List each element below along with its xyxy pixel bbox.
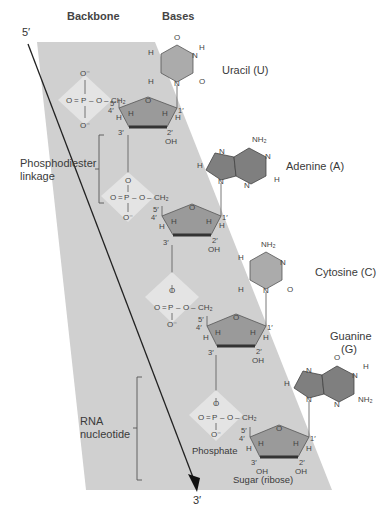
svg-text:=: = — [74, 96, 79, 105]
rna-structure-diagram: Backbone Bases 5′ 3′ O⁻ O = P – O – CH₂ … — [0, 0, 389, 508]
svg-text:3′: 3′ — [251, 458, 257, 467]
svg-text:N: N — [174, 79, 180, 88]
svg-text:CH₂: CH₂ — [242, 413, 257, 422]
svg-text:H: H — [203, 333, 209, 342]
svg-text:P: P — [124, 193, 129, 202]
svg-text:H: H — [363, 362, 369, 371]
svg-text:P: P — [168, 303, 173, 312]
svg-text:H: H — [258, 439, 264, 448]
svg-text:O: O — [154, 303, 160, 312]
svg-text:H: H — [116, 113, 122, 122]
svg-text:–: – — [147, 193, 152, 202]
svg-text:H: H — [215, 328, 221, 337]
svg-text:3′: 3′ — [118, 128, 124, 137]
svg-text:H: H — [219, 221, 225, 230]
svg-text:O: O — [183, 303, 189, 312]
svg-text:O: O — [110, 193, 116, 202]
svg-text:H: H — [263, 333, 269, 342]
svg-text:–: – — [220, 413, 225, 422]
svg-text:O: O — [174, 33, 180, 42]
phosphate-o-minus: O⁻ — [80, 69, 90, 78]
svg-text:O: O — [198, 413, 204, 422]
header-backbone: Backbone — [67, 10, 120, 22]
phosphodiester-label-line1: Phosphodiester — [20, 157, 97, 169]
svg-text:N: N — [218, 177, 224, 186]
guanine-pyrimidine-ring — [322, 366, 354, 402]
svg-text:–: – — [191, 303, 196, 312]
svg-text:O: O — [139, 193, 145, 202]
base-label-guanine-abbrev: (G) — [341, 343, 357, 355]
svg-text:O: O — [276, 424, 282, 433]
svg-text:4′: 4′ — [108, 106, 114, 115]
svg-text:H: H — [206, 217, 212, 226]
svg-text:O⁻: O⁻ — [167, 320, 177, 329]
svg-text:O: O — [199, 77, 205, 86]
svg-text:4′: 4′ — [239, 434, 245, 443]
svg-text:3′: 3′ — [208, 348, 214, 357]
svg-text:N: N — [280, 258, 286, 267]
svg-text:P: P — [212, 413, 217, 422]
svg-text:H: H — [238, 253, 244, 262]
svg-text:H: H — [246, 444, 252, 453]
base-label-cytosine: Cytosine (C) — [315, 266, 376, 278]
svg-text:H: H — [250, 328, 256, 337]
svg-text:O: O — [233, 313, 239, 322]
adenine-pyrimidine-ring — [234, 148, 266, 184]
header-bases: Bases — [162, 10, 194, 22]
svg-text:H: H — [284, 379, 290, 388]
base-label-guanine: Guanine — [330, 330, 372, 342]
adenine-imidazole-ring — [206, 153, 236, 180]
svg-text:1′: 1′ — [267, 323, 273, 332]
svg-text:N: N — [219, 147, 225, 156]
base-label-adenine: Adenine (A) — [286, 160, 344, 172]
svg-text:O: O — [287, 285, 293, 294]
svg-text:H: H — [148, 77, 154, 86]
svg-text:H: H — [171, 217, 177, 226]
svg-text:2′: 2′ — [256, 347, 262, 356]
guanine-imidazole-ring — [294, 371, 324, 398]
base-label-uracil: Uracil (U) — [222, 64, 268, 76]
svg-text:3′: 3′ — [163, 238, 169, 247]
three-prime-label: 3′ — [193, 494, 201, 506]
svg-text:4′: 4′ — [151, 213, 157, 222]
svg-text:NH₂: NH₂ — [252, 135, 267, 144]
rna-nucleotide-label-line2: nucleotide — [80, 428, 130, 440]
svg-text:H: H — [306, 444, 312, 453]
svg-text:2′: 2′ — [212, 236, 218, 245]
svg-text:CH₂: CH₂ — [154, 193, 169, 202]
rna-nucleotide-label-line1: RNA — [80, 415, 104, 427]
svg-text:OH: OH — [252, 356, 264, 365]
svg-text:N: N — [306, 395, 312, 404]
svg-text:N: N — [306, 366, 312, 375]
svg-text:OH: OH — [208, 245, 220, 254]
svg-text:H: H — [293, 439, 299, 448]
phosphate-label: Phosphate — [192, 445, 237, 456]
svg-text:N: N — [263, 286, 269, 295]
svg-text:P: P — [81, 96, 86, 105]
svg-text:O: O — [96, 96, 102, 105]
sugar-label: Sugar (ribose) — [233, 474, 293, 485]
svg-text:=: = — [162, 303, 167, 312]
svg-text:O: O — [334, 353, 340, 362]
svg-text:N: N — [192, 51, 198, 60]
svg-text:O: O — [145, 96, 151, 105]
svg-text:2′: 2′ — [167, 128, 173, 137]
svg-text:O: O — [227, 413, 233, 422]
svg-text:CH₂: CH₂ — [198, 303, 213, 312]
svg-text:OH: OH — [165, 137, 177, 146]
svg-text:NH₂: NH₂ — [261, 240, 276, 249]
svg-text:–: – — [235, 413, 240, 422]
svg-text:–: – — [176, 303, 181, 312]
svg-text:O: O — [66, 96, 72, 105]
five-prime-label: 5′ — [22, 26, 30, 38]
svg-text:H: H — [159, 222, 165, 231]
svg-text:=: = — [206, 413, 211, 422]
svg-text:OH: OH — [295, 467, 307, 476]
svg-text:=: = — [118, 193, 123, 202]
svg-text:H: H — [274, 175, 280, 184]
svg-text:N: N — [244, 181, 250, 190]
svg-text:H: H — [197, 161, 203, 170]
phosphodiester-label-line2: linkage — [20, 170, 55, 182]
svg-text:H: H — [238, 285, 244, 294]
svg-text:N: N — [265, 152, 271, 161]
